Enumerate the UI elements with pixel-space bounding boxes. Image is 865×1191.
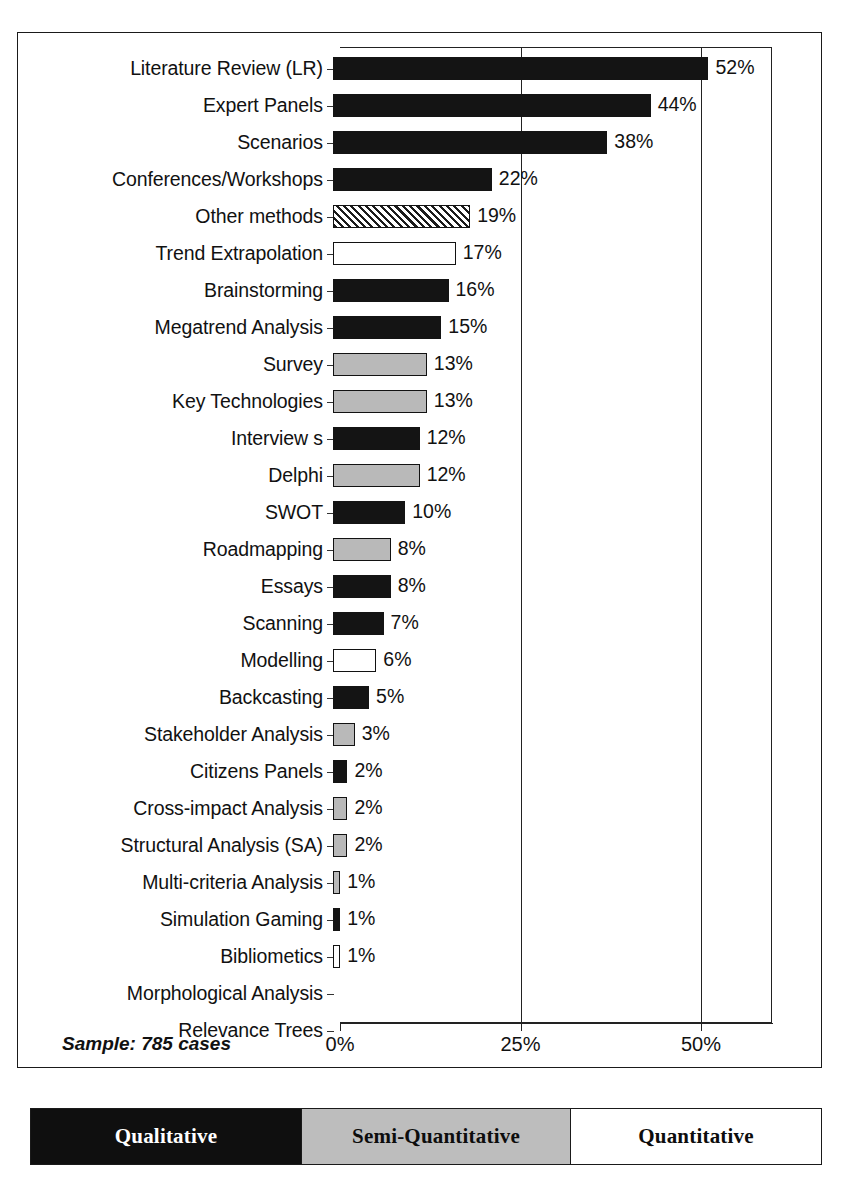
bar-chart: Literature Review (LR)52%Expert Panels44… xyxy=(17,32,822,1068)
category-label: Morphological Analysis xyxy=(17,984,333,1004)
bar-value-label: 5% xyxy=(376,685,404,708)
bar xyxy=(333,501,405,524)
bar-row: Citizens Panels2% xyxy=(17,753,822,790)
bar-value-label: 15% xyxy=(448,315,487,338)
bar-track: 12% xyxy=(333,457,822,494)
bar-row: Roadmapping8% xyxy=(17,531,822,568)
bar-track: 8% xyxy=(333,531,822,568)
x-axis-tick xyxy=(521,1023,522,1031)
bar-row: Brainstorming16% xyxy=(17,272,822,309)
bar-track: 15% xyxy=(333,309,822,346)
category-label: Scanning xyxy=(17,614,333,634)
bar-value-label: 7% xyxy=(391,611,419,634)
bar-track: 10% xyxy=(333,494,822,531)
bar xyxy=(333,945,340,968)
bar-row: Stakeholder Analysis3% xyxy=(17,716,822,753)
bar-row: Multi-criteria Analysis1% xyxy=(17,864,822,901)
category-label: Modelling xyxy=(17,651,333,671)
bar-track: 13% xyxy=(333,346,822,383)
bar-row: Backcasting5% xyxy=(17,679,822,716)
category-label: Stakeholder Analysis xyxy=(17,725,333,745)
bar-track: 52% xyxy=(333,50,822,87)
bar-value-label: 2% xyxy=(354,796,382,819)
bar-row: Delphi12% xyxy=(17,457,822,494)
bar-track: 8% xyxy=(333,568,822,605)
bar xyxy=(333,205,470,228)
bar-row: SWOT10% xyxy=(17,494,822,531)
bar-track: 38% xyxy=(333,124,822,161)
bar xyxy=(333,279,449,302)
bar-row: Essays8% xyxy=(17,568,822,605)
sample-size-note: Sample: 785 cases xyxy=(62,1032,342,1056)
bar-track xyxy=(333,1012,822,1049)
bar-value-label: 1% xyxy=(347,907,375,930)
category-label: Citizens Panels xyxy=(17,762,333,782)
category-label: Scenarios xyxy=(17,133,333,153)
category-label: Conferences/Workshops xyxy=(17,170,333,190)
category-label: Megatrend Analysis xyxy=(17,318,333,338)
bar xyxy=(333,57,708,80)
bar-value-label: 52% xyxy=(715,56,754,79)
bar-track: 44% xyxy=(333,87,822,124)
category-label: Cross-impact Analysis xyxy=(17,799,333,819)
bar-row: Modelling6% xyxy=(17,642,822,679)
bar-row: Conferences/Workshops22% xyxy=(17,161,822,198)
bar-track xyxy=(333,975,822,1012)
bar-track: 22% xyxy=(333,161,822,198)
bar-track: 12% xyxy=(333,420,822,457)
bar xyxy=(333,723,355,746)
bar-track: 1% xyxy=(333,864,822,901)
x-axis-tick xyxy=(340,1023,341,1031)
bar-row: Bibliometics1% xyxy=(17,938,822,975)
bar xyxy=(333,353,427,376)
bar-value-label: 19% xyxy=(477,204,516,227)
bar-value-label: 2% xyxy=(354,833,382,856)
bar xyxy=(333,797,347,820)
bar-row: Other methods19% xyxy=(17,198,822,235)
bar-value-label: 8% xyxy=(398,574,426,597)
category-label: Survey xyxy=(17,355,333,375)
bar-rows: Literature Review (LR)52%Expert Panels44… xyxy=(17,32,822,1068)
bar-value-label: 17% xyxy=(463,241,502,264)
bar xyxy=(333,649,376,672)
bar xyxy=(333,575,391,598)
bar-value-label: 12% xyxy=(427,426,466,449)
bar-row: Morphological Analysis xyxy=(17,975,822,1012)
bar xyxy=(333,168,492,191)
category-label: Simulation Gaming xyxy=(17,910,333,930)
bar-row: Scanning7% xyxy=(17,605,822,642)
bar-row: Literature Review (LR)52% xyxy=(17,50,822,87)
x-axis-line xyxy=(340,1023,773,1024)
bar xyxy=(333,242,456,265)
category-label: Interview s xyxy=(17,429,333,449)
category-label: Literature Review (LR) xyxy=(17,59,333,79)
x-axis-tick-label: 25% xyxy=(500,1032,540,1056)
bar xyxy=(333,390,427,413)
bar-row: Simulation Gaming1% xyxy=(17,901,822,938)
bar-row: Trend Extrapolation17% xyxy=(17,235,822,272)
legend-bar: Qualitative Semi-Quantitative Quantitati… xyxy=(30,1108,822,1165)
category-label: SWOT xyxy=(17,503,333,523)
category-label: Key Technologies xyxy=(17,392,333,412)
bar-track: 2% xyxy=(333,827,822,864)
bar-value-label: 1% xyxy=(347,870,375,893)
bar-track: 1% xyxy=(333,901,822,938)
category-label: Structural Analysis (SA) xyxy=(17,836,333,856)
bar-track: 2% xyxy=(333,790,822,827)
x-axis-tick-label: 50% xyxy=(681,1032,721,1056)
bar-row: Megatrend Analysis15% xyxy=(17,309,822,346)
legend-item-qualitative: Qualitative xyxy=(31,1109,301,1164)
bar-track: 1% xyxy=(333,938,822,975)
x-axis-tick xyxy=(701,1023,702,1031)
bar xyxy=(333,538,391,561)
bar-track: 16% xyxy=(333,272,822,309)
category-label: Trend Extrapolation xyxy=(17,244,333,264)
bar-track: 5% xyxy=(333,679,822,716)
category-label: Brainstorming xyxy=(17,281,333,301)
bar xyxy=(333,464,420,487)
bar-value-label: 2% xyxy=(354,759,382,782)
bar xyxy=(333,427,420,450)
bar-track: 6% xyxy=(333,642,822,679)
bar-value-label: 13% xyxy=(434,389,473,412)
bar-track: 2% xyxy=(333,753,822,790)
